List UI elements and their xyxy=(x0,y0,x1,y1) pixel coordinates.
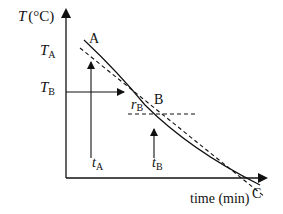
tb-label: TB xyxy=(40,79,55,97)
y-axis-label: T(°C) xyxy=(18,8,54,25)
cooling-curve-diagram: T(°C) TA TB A B C rB tA tB time (min) xyxy=(0,0,283,214)
tangent-line xyxy=(80,48,265,197)
tb-time-label: tB xyxy=(152,155,163,172)
rb-label: rB xyxy=(131,97,143,113)
ta-label: TA xyxy=(40,42,56,60)
ta-time-label: tA xyxy=(92,155,104,172)
cooling-curve xyxy=(84,40,260,185)
point-c-label: C xyxy=(252,186,261,201)
x-axis-label: time (min) xyxy=(190,191,250,207)
point-a-label: A xyxy=(89,31,100,46)
point-b-label: B xyxy=(154,92,163,107)
